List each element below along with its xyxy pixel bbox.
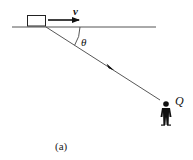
diagram-canvas: v θ Q (a) — [0, 0, 193, 160]
person-icon — [161, 101, 172, 126]
velocity-label: v — [73, 5, 78, 17]
moving-block — [28, 16, 46, 27]
observer-label: Q — [175, 94, 184, 108]
sight-line — [46, 27, 160, 100]
figure-caption: (a) — [55, 140, 68, 153]
angle-label: θ — [81, 36, 87, 48]
angle-arc — [75, 27, 80, 45]
